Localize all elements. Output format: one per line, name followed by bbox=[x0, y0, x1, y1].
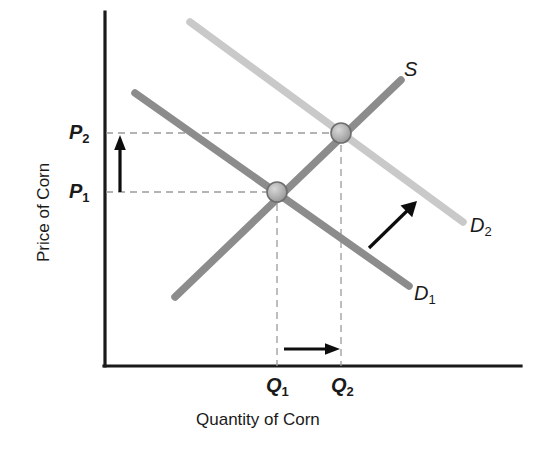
p2-tick-sub: 2 bbox=[82, 131, 89, 146]
demand-shift-arrow-icon bbox=[369, 201, 417, 248]
supply-curve bbox=[175, 80, 401, 297]
equilibrium-points bbox=[267, 123, 351, 202]
y-axis-title: Price of Corn bbox=[34, 163, 54, 262]
q2-tick-sub: 2 bbox=[347, 384, 354, 399]
demand-1-sub: 1 bbox=[428, 292, 435, 307]
q1-tick-sub: 1 bbox=[282, 384, 289, 399]
demand-curve-1-label: D1 bbox=[414, 282, 436, 305]
supply-demand-figure: Price of Corn Quantity of Corn P2 P1 Q1 … bbox=[0, 0, 553, 460]
p1-tick-sub: 1 bbox=[82, 190, 89, 205]
x-axis-title: Quantity of Corn bbox=[196, 410, 320, 430]
supply-curve-label: S bbox=[404, 58, 417, 81]
q2-tick-letter: Q bbox=[331, 374, 347, 396]
chart-axes bbox=[104, 12, 521, 366]
demand-1-letter: D bbox=[414, 282, 428, 304]
price-increase-arrow-icon bbox=[114, 135, 126, 192]
demand-2-letter: D bbox=[470, 214, 484, 236]
q1-tick-label: Q1 bbox=[266, 374, 289, 397]
q2-tick-label: Q2 bbox=[331, 374, 354, 397]
annotation-arrows bbox=[114, 135, 417, 355]
p1-tick-label: P1 bbox=[69, 180, 90, 203]
equilibrium-point-1 bbox=[267, 182, 287, 202]
quantity-increase-arrow-icon bbox=[284, 343, 340, 355]
q1-tick-letter: Q bbox=[266, 374, 282, 396]
p2-tick-label: P2 bbox=[69, 121, 90, 144]
p1-tick-letter: P bbox=[69, 180, 82, 202]
demand-curve-2-label: D2 bbox=[470, 214, 492, 237]
p2-tick-letter: P bbox=[69, 121, 82, 143]
equilibrium-point-2 bbox=[331, 123, 351, 143]
demand-2-sub: 2 bbox=[484, 224, 491, 239]
